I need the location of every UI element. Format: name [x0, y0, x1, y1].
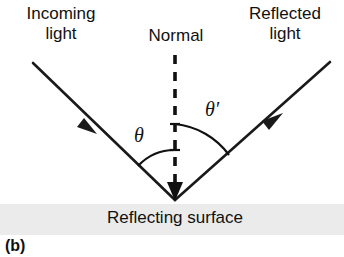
- reflected-ray-arrowhead: [262, 113, 283, 130]
- panel-label: (b): [5, 236, 25, 256]
- normal-label: Normal: [130, 26, 222, 46]
- incoming-ray-line: [33, 63, 175, 200]
- reflected-light-label-line1: Reflected: [230, 4, 340, 24]
- reflected-light-label-line2: light: [230, 24, 340, 44]
- reflection-diagram: Incoming light Normal Reflected light Re…: [0, 0, 344, 257]
- angle-incidence-arc: [138, 150, 175, 166]
- reflected-light-label: Reflected light: [230, 4, 340, 44]
- reflecting-surface-label: Reflecting surface: [72, 208, 278, 228]
- angle-of-incidence-label: θ: [134, 124, 144, 147]
- angle-reflection-arc: [175, 124, 229, 155]
- angle-of-reflection-label: θ′: [205, 98, 219, 121]
- incoming-light-label-line1: Incoming: [6, 4, 116, 24]
- incoming-light-label-line2: light: [6, 24, 116, 44]
- incoming-light-label: Incoming light: [6, 4, 116, 44]
- normal-arrowhead: [167, 182, 183, 201]
